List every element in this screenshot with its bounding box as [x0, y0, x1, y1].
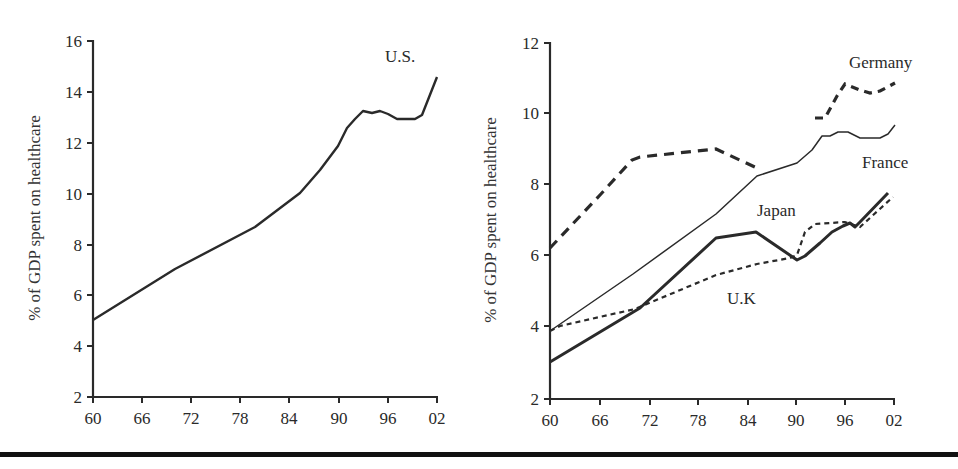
x-tick-label: 02 — [429, 409, 446, 428]
series-us-line — [93, 77, 437, 320]
y-tick-label: 4 — [74, 337, 83, 356]
y-tick-label: 8 — [531, 175, 540, 194]
series-germany-line-2 — [815, 83, 895, 118]
left-y-axis-title: % of GDP spent on healthcare — [25, 115, 44, 321]
y-tick-label: 6 — [531, 246, 540, 265]
y-tick-label: 2 — [74, 388, 83, 407]
y-tick-label: 8 — [74, 236, 83, 255]
x-tick-label: 96 — [837, 411, 854, 430]
y-tick-label: 4 — [531, 317, 540, 336]
y-tick-label: 14 — [65, 83, 83, 102]
series-germany-line-1 — [550, 149, 757, 248]
right-y-tick-labels: 12 10 8 6 4 2 — [522, 34, 540, 409]
x-tick-label: 78 — [232, 409, 249, 428]
x-tick-label: 02 — [886, 411, 903, 430]
x-tick-label: 66 — [134, 409, 151, 428]
series-label-japan: Japan — [757, 201, 796, 220]
series-uk-line — [550, 197, 893, 331]
x-tick-label: 84 — [281, 409, 299, 428]
y-tick-label: 6 — [74, 286, 83, 305]
y-tick-label: 2 — [531, 390, 540, 409]
x-tick-label: 60 — [542, 411, 559, 430]
left-x-tick-labels: 60 66 72 78 84 90 96 02 — [85, 409, 446, 428]
x-tick-label: 72 — [183, 409, 200, 428]
series-label-germany: Germany — [849, 53, 913, 72]
series-france-line — [550, 125, 895, 331]
x-tick-label: 78 — [690, 411, 707, 430]
series-label-uk: U.K — [727, 289, 757, 308]
series-japan-line — [550, 193, 888, 362]
x-tick-label: 96 — [380, 409, 397, 428]
right-y-axis-title: % of GDP spent on healthcare — [481, 117, 500, 323]
y-tick-label: 12 — [522, 34, 539, 53]
series-label-us: U.S. — [385, 47, 415, 66]
x-tick-label: 66 — [592, 411, 609, 430]
bottom-rule-divider — [0, 452, 958, 457]
y-tick-label: 12 — [65, 134, 82, 153]
x-tick-label: 90 — [788, 411, 805, 430]
x-tick-label: 84 — [740, 411, 758, 430]
x-tick-label: 60 — [85, 409, 102, 428]
left-y-tick-labels: 16 14 12 10 8 6 4 2 — [65, 32, 83, 407]
y-tick-label: 16 — [65, 32, 82, 51]
y-tick-label: 10 — [522, 104, 539, 123]
x-tick-label: 72 — [642, 411, 659, 430]
y-tick-label: 10 — [65, 185, 82, 204]
series-label-france: France — [862, 153, 908, 172]
x-tick-label: 90 — [331, 409, 348, 428]
right-x-tick-labels: 60 66 72 78 84 90 96 02 — [542, 411, 903, 430]
figure: 16 14 12 10 8 6 4 2 60 66 72 78 84 90 — [0, 0, 958, 469]
left-chart: 16 14 12 10 8 6 4 2 60 66 72 78 84 90 — [25, 32, 446, 428]
right-chart: 12 10 8 6 4 2 60 66 72 78 84 90 96 02 — [481, 34, 913, 430]
